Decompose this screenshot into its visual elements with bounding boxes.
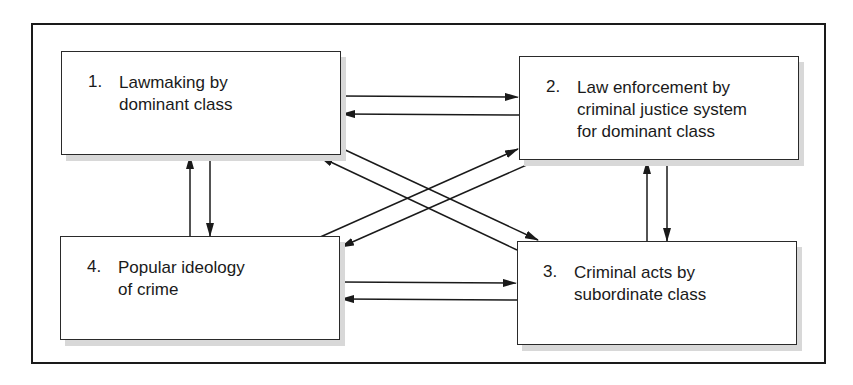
node-lawmaking: 1. Lawmaking by dominant class	[61, 51, 341, 155]
node-number: 2.	[546, 77, 560, 97]
node-number: 4.	[87, 257, 101, 277]
arrow-2-to-4	[341, 160, 538, 247]
arrow-1-to-2	[341, 96, 518, 97]
node-criminal-acts: 3. Criminal acts by subordinate class	[517, 241, 797, 345]
arrow-1-to-3	[341, 148, 538, 240]
node-number: 1.	[88, 72, 102, 92]
arrow-4-to-3	[340, 282, 516, 283]
node-law-enforcement: 2. Law enforcement by criminal justice s…	[519, 56, 799, 160]
node-number: 3.	[543, 262, 557, 282]
arrow-3-to-1	[320, 157, 517, 250]
node-popular-ideology: 4. Popular ideology of crime	[60, 236, 340, 340]
arrow-3-to-4	[341, 299, 517, 300]
node-label: Criminal acts by subordinate class	[574, 262, 706, 306]
node-label: Popular ideology of crime	[118, 257, 245, 301]
arrow-2-to-1	[342, 114, 519, 115]
node-label: Lawmaking by dominant class	[119, 72, 232, 116]
arrow-4-to-2	[318, 149, 518, 238]
node-label: Law enforcement by criminal justice syst…	[577, 77, 747, 143]
